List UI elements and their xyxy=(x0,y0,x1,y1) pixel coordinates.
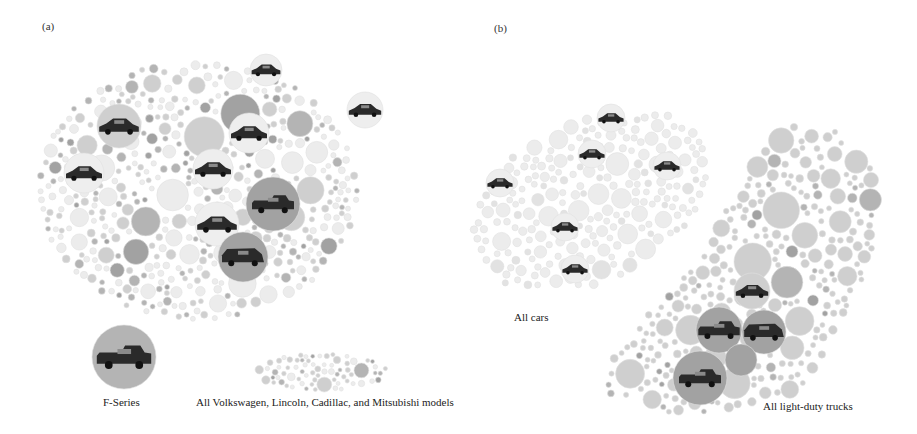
bubble xyxy=(310,382,314,386)
bubble xyxy=(49,162,61,174)
bubble xyxy=(339,238,344,243)
bubble xyxy=(844,172,849,177)
bubble xyxy=(581,239,590,248)
bubble xyxy=(527,140,542,155)
bubble xyxy=(38,189,43,194)
bubble xyxy=(689,145,695,151)
bubble xyxy=(696,283,701,288)
bubble xyxy=(631,135,637,141)
bubble xyxy=(748,398,757,407)
bubble xyxy=(188,268,193,273)
bubble xyxy=(568,144,574,150)
bubble xyxy=(644,331,649,336)
bubble xyxy=(285,140,292,147)
bubble xyxy=(823,133,832,142)
bubble xyxy=(262,376,270,384)
bubble xyxy=(771,266,803,298)
all-trucks-caption: All light-duty trucks xyxy=(763,400,853,412)
bubble xyxy=(720,262,727,269)
bubble xyxy=(312,239,319,246)
bubble xyxy=(656,319,673,336)
bubble xyxy=(189,156,194,161)
bubble xyxy=(335,130,340,135)
bubble xyxy=(320,224,327,231)
bubble xyxy=(632,206,648,222)
bubble xyxy=(619,351,624,356)
bubble xyxy=(93,197,98,202)
bubble xyxy=(659,305,664,310)
bubble xyxy=(693,177,699,183)
bubble xyxy=(294,365,298,369)
bubble xyxy=(81,198,89,206)
bubble xyxy=(864,229,875,240)
bubble xyxy=(646,221,652,227)
bubble xyxy=(606,153,629,176)
bubble xyxy=(317,251,322,256)
bubble xyxy=(70,124,79,133)
bubble xyxy=(674,212,681,219)
bubble xyxy=(329,190,334,195)
bubble xyxy=(801,259,809,267)
bubble xyxy=(59,124,65,130)
bubble xyxy=(117,217,129,229)
bubble xyxy=(800,157,812,169)
bubble xyxy=(333,356,340,363)
bubble xyxy=(132,191,137,196)
bubble xyxy=(732,235,738,241)
bubble xyxy=(77,135,97,155)
bubble xyxy=(58,234,63,239)
bubble xyxy=(343,157,350,164)
bubble xyxy=(97,87,104,94)
bubble xyxy=(246,163,251,168)
bubble xyxy=(38,172,45,179)
bubble xyxy=(297,266,306,275)
bubble xyxy=(345,354,349,358)
bubble xyxy=(829,326,838,335)
bubble xyxy=(519,227,527,235)
bubble xyxy=(282,355,286,359)
bubble xyxy=(305,136,310,141)
bubble xyxy=(526,237,532,243)
bubble xyxy=(745,183,751,189)
bubble xyxy=(165,85,172,92)
bubble xyxy=(159,98,164,103)
bubble xyxy=(768,298,781,311)
bubble xyxy=(165,285,170,290)
bubble xyxy=(264,276,269,281)
bubble xyxy=(345,379,349,383)
bubble xyxy=(546,155,553,162)
bubble xyxy=(639,225,645,231)
bubble xyxy=(818,351,825,358)
bubble xyxy=(683,295,688,300)
bubble xyxy=(347,222,354,229)
bubble xyxy=(541,183,547,189)
bubble xyxy=(332,223,344,235)
bubble xyxy=(346,206,351,211)
bubble xyxy=(295,138,304,147)
bubble xyxy=(313,388,317,392)
bubble xyxy=(310,207,316,213)
bubble xyxy=(163,145,176,158)
bubble xyxy=(253,87,259,93)
bubble xyxy=(658,188,665,195)
bubble xyxy=(470,226,478,234)
bubble xyxy=(768,154,781,167)
bubble xyxy=(656,313,661,318)
bubble xyxy=(345,361,350,366)
bubble xyxy=(148,104,153,109)
bubble xyxy=(345,146,350,151)
bubble xyxy=(116,253,121,258)
bubble xyxy=(191,61,200,70)
bubble xyxy=(186,181,191,186)
bubble xyxy=(336,197,341,202)
bubble xyxy=(475,220,482,227)
bubble xyxy=(321,134,326,139)
bubble xyxy=(62,255,70,263)
bubble xyxy=(515,277,521,283)
bubble xyxy=(326,175,332,181)
bubble xyxy=(730,206,736,212)
bubble xyxy=(349,372,353,376)
bubble xyxy=(830,189,846,205)
bubble xyxy=(75,260,84,269)
bubble xyxy=(494,219,501,226)
